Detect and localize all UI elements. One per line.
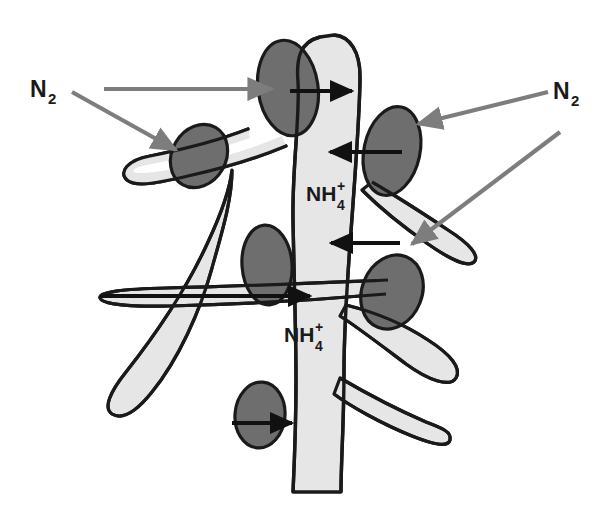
label-nh4-lower-base: NH	[284, 323, 314, 346]
label-nh4-lower-subscript: 4	[315, 338, 323, 354]
label-n2-right-base: N	[553, 78, 570, 104]
diagram-canvas: N 2 N 2 NH 4 + NH 4 +	[0, 0, 614, 524]
label-nh4-upper-superscript: +	[337, 178, 345, 194]
label-n2-right-subscript: 2	[571, 92, 579, 109]
label-n2-left-subscript: 2	[48, 90, 56, 107]
root-branch-lower-right	[334, 378, 450, 444]
root-nodule-figure: N 2 N 2 NH 4 + NH 4 +	[0, 0, 614, 524]
label-nh4-upper-subscript: 4	[337, 197, 345, 213]
nodule-upper-left	[159, 114, 239, 198]
label-n2-right: N 2	[553, 78, 579, 109]
n2-arrow-left-diagonal	[72, 92, 176, 150]
label-nh4-upper-base: NH	[306, 182, 336, 205]
label-n2-left-base: N	[30, 76, 47, 102]
n2-arrow-right-lower	[412, 132, 560, 244]
label-nh4-lower-superscript: +	[315, 319, 323, 335]
n2-arrow-right-upper	[418, 92, 548, 124]
label-n2-left: N 2	[30, 76, 56, 107]
nodule-bottom	[232, 380, 288, 450]
